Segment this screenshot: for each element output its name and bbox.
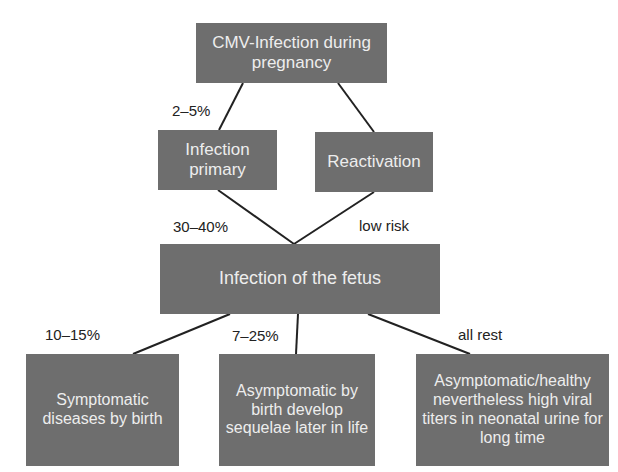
edge-fetus-sequelae bbox=[296, 314, 298, 354]
node-label: Symptomatic diseases by birth bbox=[30, 391, 175, 429]
node-label: CMV-Infection during pregnancy bbox=[200, 33, 383, 73]
edge-label-root-primary: 2–5% bbox=[172, 102, 210, 119]
node-label: Asymptomatic by birth develop sequelae l… bbox=[223, 382, 371, 439]
node-label: Infection of the fetus bbox=[219, 268, 381, 289]
edge-primary-fetus bbox=[218, 190, 294, 244]
node-cmv-infection: CMV-Infection during pregnancy bbox=[196, 23, 387, 83]
node-asymptomatic-sequelae: Asymptomatic by birth develop sequelae l… bbox=[219, 354, 375, 466]
edge-label-primary-fetus: 30–40% bbox=[173, 218, 228, 235]
edge-root-reactivation bbox=[338, 83, 374, 132]
node-reactivation: Reactivation bbox=[315, 132, 433, 192]
node-symptomatic: Symptomatic diseases by birth bbox=[26, 354, 179, 466]
edge-label-fetus-symptomatic: 10–15% bbox=[45, 326, 100, 343]
node-label: Infection primary bbox=[162, 140, 273, 180]
node-asymptomatic-healthy: Asymptomatic/healthy nevertheless high v… bbox=[416, 354, 609, 466]
node-infection-primary: Infection primary bbox=[158, 130, 277, 190]
edge-fetus-healthy bbox=[368, 314, 470, 354]
edge-label-fetus-sequelae: 7–25% bbox=[232, 327, 279, 344]
edge-label-fetus-healthy: all rest bbox=[458, 326, 502, 343]
edge-fetus-symptomatic bbox=[133, 314, 230, 354]
node-label: Reactivation bbox=[327, 152, 421, 172]
edge-label-reactivation-fetus: low risk bbox=[359, 217, 409, 234]
node-infection-of-fetus: Infection of the fetus bbox=[160, 244, 440, 314]
node-label: Asymptomatic/healthy nevertheless high v… bbox=[420, 372, 605, 448]
edge-root-primary bbox=[219, 83, 243, 130]
